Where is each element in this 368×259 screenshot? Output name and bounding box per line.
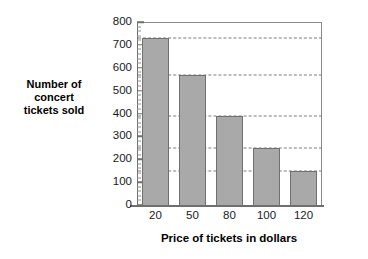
x-axis-tick-label: 50 <box>186 209 199 221</box>
y-axis-title-line-3: tickets sold <box>6 104 102 117</box>
bar <box>216 116 243 205</box>
y-axis-minor-tick <box>137 81 141 82</box>
bar <box>142 38 169 205</box>
y-axis-minor-tick <box>137 108 141 109</box>
y-axis-minor-tick <box>137 54 141 55</box>
y-axis-minor-tick <box>137 200 141 201</box>
y-axis-minor-tick <box>137 195 141 196</box>
x-axis-tick-label: 100 <box>257 209 276 221</box>
y-axis-minor-tick <box>137 99 141 100</box>
y-axis-minor-tick <box>137 186 141 187</box>
y-axis-title-line-2: concert <box>6 91 102 104</box>
y-axis-minor-tick <box>137 145 141 146</box>
y-axis-minor-tick <box>137 131 141 132</box>
x-axis-tick-label: 80 <box>223 209 236 221</box>
y-axis-minor-tick <box>137 40 141 41</box>
y-axis-minor-tick <box>137 172 141 173</box>
bar <box>179 75 206 205</box>
y-axis-minor-tick <box>137 168 141 169</box>
bar <box>290 171 317 205</box>
y-axis-tick-label: 400 <box>92 108 132 120</box>
x-axis-line <box>130 205 324 207</box>
y-axis-tick-label: 700 <box>92 39 132 51</box>
y-axis-minor-tick <box>137 35 141 36</box>
y-axis-minor-tick <box>137 95 141 96</box>
y-axis-tick-label: 100 <box>92 176 132 188</box>
x-axis-tick-label: 120 <box>294 209 313 221</box>
y-axis-major-tick <box>137 21 144 23</box>
y-axis-minor-tick <box>137 31 141 32</box>
y-axis-minor-tick <box>137 49 141 50</box>
y-axis-minor-tick <box>137 127 141 128</box>
y-axis-minor-tick <box>137 140 141 141</box>
x-axis-tick-label: 20 <box>149 209 162 221</box>
y-axis-minor-tick <box>137 26 141 27</box>
y-axis-minor-tick <box>137 177 141 178</box>
y-axis-tick-label: 500 <box>92 85 132 97</box>
y-axis-minor-tick <box>137 76 141 77</box>
bar-chart-figure: Number of concert tickets sold 010020030… <box>0 0 368 259</box>
y-axis-minor-tick <box>137 58 141 59</box>
y-axis-title-line-1: Number of <box>6 78 102 91</box>
y-axis-tick-label: 600 <box>92 62 132 74</box>
y-axis-tick-label: 200 <box>92 154 132 166</box>
y-axis-minor-tick <box>137 104 141 105</box>
y-axis-minor-tick <box>137 154 141 155</box>
y-axis-minor-tick <box>137 118 141 119</box>
y-axis-minor-tick <box>137 86 141 87</box>
page-artifact <box>0 0 368 6</box>
bar <box>253 148 280 205</box>
y-axis-tick-label: 0 <box>92 199 132 211</box>
x-axis-title: Price of tickets in dollars <box>112 232 346 244</box>
y-axis-minor-tick <box>137 72 141 73</box>
y-axis-tick-label: 800 <box>92 16 132 28</box>
y-axis-tick-label: 300 <box>92 131 132 143</box>
y-axis-minor-tick <box>137 191 141 192</box>
y-axis-minor-tick <box>137 122 141 123</box>
y-axis-minor-tick <box>137 150 141 151</box>
y-axis-title: Number of concert tickets sold <box>6 78 102 117</box>
y-axis-minor-tick <box>137 163 141 164</box>
y-axis-minor-tick <box>137 63 141 64</box>
